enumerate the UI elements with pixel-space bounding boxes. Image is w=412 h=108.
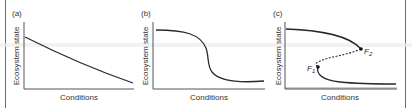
panel-a-label: (a): [12, 9, 22, 18]
panel-b-ylabel: Ecosystem state: [141, 26, 150, 85]
point-f1: [316, 65, 320, 69]
figure-svg: (a) Conditions Ecosystem state (b) Condi…: [0, 0, 412, 108]
panel-c-ylabel: Ecosystem state: [274, 26, 283, 85]
panel-b: (b) Conditions Ecosystem state: [141, 9, 265, 102]
panel-c-unstable-branch: [316, 49, 361, 67]
panel-c: (c) F2 F1 Conditions Ecosystem state: [273, 9, 397, 102]
panel-a-xlabel: Conditions: [60, 93, 98, 102]
panel-a-ylabel: Ecosystem state: [12, 26, 21, 85]
f2-label: F2: [364, 47, 373, 57]
panel-b-label: (b): [141, 9, 151, 18]
panel-c-xlabel: Conditions: [321, 93, 359, 102]
panel-b-curve: [156, 30, 264, 82]
panel-c-upper-branch: [286, 29, 361, 49]
panel-c-lower-branch: [318, 67, 396, 84]
point-f2: [359, 47, 363, 51]
f1-label: F1: [307, 64, 315, 74]
panel-a: (a) Conditions Ecosystem state: [12, 9, 134, 102]
panel-b-xlabel: Conditions: [190, 93, 228, 102]
panel-c-label: (c): [273, 9, 283, 18]
panel-a-curve: [25, 37, 133, 83]
